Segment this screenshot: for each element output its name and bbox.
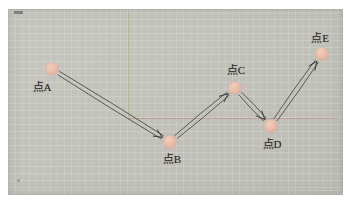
point-label-c: 点C [227,65,245,76]
arrow-stroke [277,62,318,120]
data-point-c[interactable] [229,82,242,95]
arrow-layer [0,0,351,204]
arrow-b-c[interactable] [175,92,229,138]
arrow-stroke [60,72,164,136]
arrowhead-barb [157,130,162,138]
arrow-stroke [177,95,229,138]
point-label-b: 点B [163,154,181,165]
arrowhead-barb [153,136,162,137]
arrow-c-d[interactable] [239,93,266,121]
data-point-d[interactable] [265,120,278,133]
data-point-e[interactable] [316,48,329,61]
arrow-stroke [175,92,227,135]
data-point-a[interactable] [46,63,59,76]
point-label-e: 点E [311,33,329,44]
data-point-b[interactable] [164,136,177,149]
arrow-stroke [58,75,162,139]
point-label-d: 点D [263,139,282,150]
diagram-stage: 点A点B点C点D点E [0,0,351,204]
arrow-stroke [274,60,315,118]
point-label-a: 点A [33,82,52,93]
screenshot-root: 点A点B点C点D点E [0,0,351,204]
arrow-a-b[interactable] [58,72,164,139]
arrow-d-e[interactable] [274,60,318,120]
